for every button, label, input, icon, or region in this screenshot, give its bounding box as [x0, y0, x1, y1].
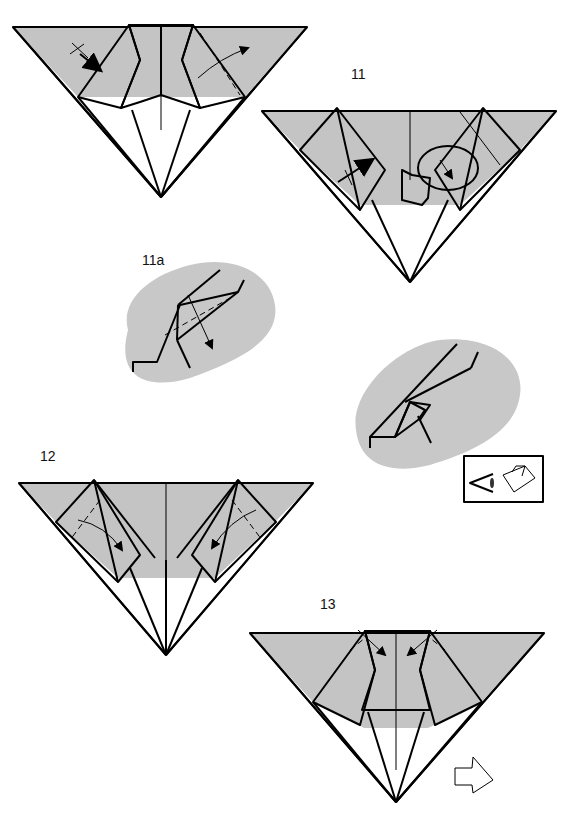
- step-12-diagram: [19, 480, 313, 655]
- step-11b-detail: [356, 339, 521, 468]
- step-13-diagram: [250, 630, 544, 802]
- eye-icon: [470, 474, 493, 492]
- turn-over-arrow-icon: [455, 757, 493, 793]
- step-11a-detail: [125, 262, 275, 383]
- origami-diagram: [0, 0, 566, 820]
- step-11-diagram: [262, 108, 556, 282]
- view-indicator-box: [464, 456, 543, 502]
